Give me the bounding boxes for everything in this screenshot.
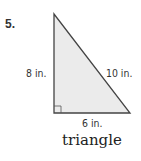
hypotenuse-label: 10 in. [106, 67, 132, 80]
left-leg-label: 8 in. [26, 67, 46, 80]
figure-caption: triangle [62, 131, 122, 149]
bottom-leg-label: 6 in. [82, 117, 102, 130]
triangle-shape [54, 14, 130, 113]
